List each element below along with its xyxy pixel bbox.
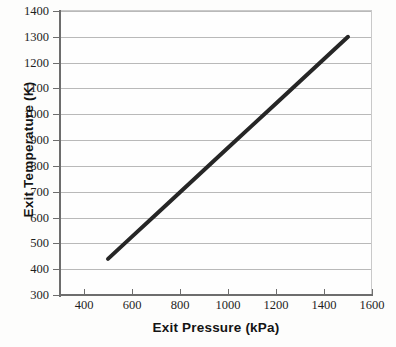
- y-axis-tick-label: 1400: [9, 5, 49, 18]
- gridline-horizontal: [60, 218, 372, 219]
- gridline-horizontal: [60, 166, 372, 167]
- gridline-horizontal: [60, 63, 372, 64]
- axis-left-spine: [59, 10, 61, 297]
- chart-figure: 1400130012001100100090080070060050040030…: [0, 0, 396, 347]
- y-axis-tick: [53, 166, 60, 167]
- x-axis-tick: [132, 289, 133, 295]
- gridline-horizontal: [60, 11, 372, 12]
- y-axis-tick-label: 300: [9, 289, 49, 302]
- x-axis-tick: [180, 289, 181, 295]
- y-axis-tick: [53, 37, 60, 38]
- x-axis-tick: [372, 289, 373, 295]
- gridline-horizontal: [60, 269, 372, 270]
- gridline-horizontal: [60, 88, 372, 89]
- y-axis-tick: [53, 114, 60, 115]
- x-axis-title: Exit Pressure (kPa): [60, 320, 372, 335]
- y-axis-title: Exit Temperature (K): [21, 35, 36, 265]
- gridline-horizontal: [60, 114, 372, 115]
- gridline-horizontal: [60, 37, 372, 38]
- y-axis-tick: [53, 295, 60, 296]
- y-axis-tick: [53, 11, 60, 12]
- y-axis-tick: [53, 140, 60, 141]
- y-axis-tick: [53, 88, 60, 89]
- x-axis-tick-label: 1000: [203, 299, 253, 312]
- x-axis-tick-label: 400: [59, 299, 109, 312]
- y-axis-tick: [53, 269, 60, 270]
- y-axis-tick: [53, 192, 60, 193]
- x-axis-tick-label: 1200: [251, 299, 301, 312]
- x-axis-tick: [84, 289, 85, 295]
- y-axis-tick-label: 400: [9, 263, 49, 276]
- y-axis-tick: [53, 243, 60, 244]
- axis-right-spine: [371, 10, 372, 296]
- y-axis-tick: [53, 218, 60, 219]
- x-axis-tick-label: 1400: [299, 299, 349, 312]
- gridline-horizontal: [60, 140, 372, 141]
- axis-bottom-spine: [59, 294, 373, 296]
- x-axis-tick-label: 1600: [347, 299, 396, 312]
- gridline-horizontal: [60, 243, 372, 244]
- y-axis-tick: [53, 63, 60, 64]
- x-axis-tick: [324, 289, 325, 295]
- x-axis-tick-label: 600: [107, 299, 157, 312]
- x-axis-tick: [276, 289, 277, 295]
- gridline-horizontal: [60, 192, 372, 193]
- x-axis-tick: [228, 289, 229, 295]
- x-axis-tick-label: 800: [155, 299, 205, 312]
- plot-area: [60, 11, 372, 295]
- axis-top-spine: [60, 10, 372, 11]
